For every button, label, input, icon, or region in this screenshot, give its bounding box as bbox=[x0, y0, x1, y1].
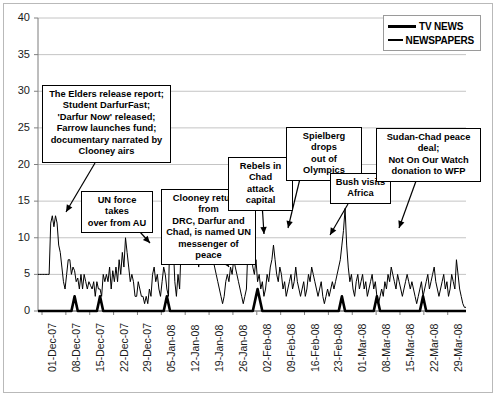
legend-label-newspapers: NEWSPAPERS bbox=[406, 35, 474, 46]
annotation-line: 'Darfur Now' released; bbox=[47, 112, 166, 123]
x-axis-tick-label: 08-Mar-08 bbox=[380, 324, 392, 372]
annotation-line: over from AU bbox=[86, 218, 148, 229]
annotation-arrowhead-spielberg bbox=[287, 220, 293, 228]
annotation-line: Africa bbox=[335, 188, 386, 199]
x-axis-tick-label: 12-Jan-08 bbox=[189, 325, 201, 372]
annotation-line: documentary narrated by bbox=[47, 135, 166, 146]
chart-legend: TV NEWS NEWSPAPERS bbox=[383, 15, 481, 51]
y-axis-tick-label: 30 bbox=[4, 84, 30, 96]
legend-swatch-tv-news bbox=[388, 25, 416, 28]
annotation-sudan-chad-peace: Sudan-Chad peace deal;Not On Our Watchdo… bbox=[376, 128, 481, 182]
x-axis-tick-label: 09-Feb-08 bbox=[285, 324, 297, 372]
y-axis-tick-label: 0 bbox=[4, 304, 30, 316]
annotation-line: attack capital bbox=[233, 184, 288, 207]
y-axis-tick-label: 5 bbox=[4, 267, 30, 279]
annotation-line: Spielberg drops bbox=[291, 131, 357, 154]
annotation-arrowhead-rebels-chad bbox=[260, 227, 266, 234]
annotation-line: Clooney airs bbox=[47, 146, 166, 157]
annotation-line: messenger of peace bbox=[166, 239, 251, 262]
legend-label-tv-news: TV NEWS bbox=[419, 21, 463, 32]
legend-item-tv-news: TV NEWS bbox=[388, 19, 474, 33]
x-axis-tick-label: 22-Dec-07 bbox=[118, 323, 130, 372]
annotation-line: The Elders release report; bbox=[47, 89, 166, 100]
x-axis-tick-label: 19-Jan-08 bbox=[213, 325, 225, 372]
y-axis-tick-label: 40 bbox=[4, 11, 30, 23]
x-axis-tick-label: 26-Jan-08 bbox=[237, 325, 249, 372]
x-axis-tick-label: 15-Dec-07 bbox=[94, 323, 106, 372]
annotation-line: Rebels in Chad bbox=[233, 161, 288, 184]
x-axis-tick-label: 16-Feb-08 bbox=[309, 324, 321, 372]
annotation-line: Chad, is named UN bbox=[166, 227, 251, 238]
x-axis-tick-label: 02-Feb-08 bbox=[261, 324, 273, 372]
annotation-arrowhead-sudan-chad-peace bbox=[398, 220, 404, 228]
chart-screenshot: 0510152025303540 01-Dec-0708-Dec-0715-De… bbox=[0, 0, 499, 400]
x-axis-tick-label: 22-Mar-08 bbox=[428, 324, 440, 372]
x-axis-tick-label: 05-Jan-08 bbox=[165, 325, 177, 372]
y-axis-tick-label: 15 bbox=[4, 194, 30, 206]
annotation-line: Not On Our Watch bbox=[381, 155, 476, 166]
x-axis-tick-label: 23-Feb-08 bbox=[332, 324, 344, 372]
x-axis-tick-label: 08-Dec-07 bbox=[70, 323, 82, 372]
y-axis-tick-label: 25 bbox=[4, 121, 30, 133]
annotation-line: Student DarfurFast; bbox=[47, 100, 166, 111]
legend-item-newspapers: NEWSPAPERS bbox=[388, 33, 474, 47]
annotation-line: UN force takes bbox=[86, 195, 148, 218]
annotation-un-force: UN force takesover from AU bbox=[81, 191, 153, 233]
y-axis-tick-label: 20 bbox=[4, 158, 30, 170]
annotation-line: DRC, Darfur and bbox=[166, 216, 251, 227]
y-axis-tick-label: 35 bbox=[4, 48, 30, 60]
annotation-line: donation to WFP bbox=[381, 166, 476, 177]
x-axis-tick-label: 15-Mar-08 bbox=[404, 324, 416, 372]
x-axis-tick-label: 29-Dec-07 bbox=[141, 323, 153, 372]
annotation-elders-report: The Elders release report;Student Darfur… bbox=[42, 85, 171, 163]
y-axis-tick-label: 10 bbox=[4, 231, 30, 243]
annotation-line: Farrow launches fund; bbox=[47, 123, 166, 134]
x-axis-tick-label: 01-Dec-07 bbox=[46, 323, 58, 372]
x-axis-tick-label: 29-Mar-08 bbox=[452, 324, 464, 372]
legend-swatch-newspapers bbox=[388, 39, 403, 40]
annotation-line: Sudan-Chad peace deal; bbox=[381, 132, 476, 155]
annotation-rebels-chad: Rebels in Chadattack capital bbox=[228, 157, 293, 211]
x-axis-tick-label: 01-Mar-08 bbox=[356, 324, 368, 372]
